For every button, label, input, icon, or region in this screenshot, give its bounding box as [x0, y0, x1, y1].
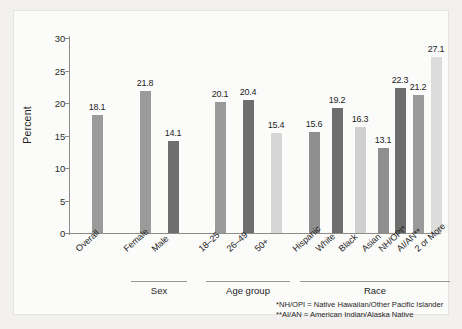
- chart-plate: Percent 051015202530 18.121.814.120.120.…: [14, 11, 448, 314]
- group-label: Race: [300, 285, 450, 296]
- bar-value-label: 18.1: [83, 102, 111, 112]
- y-tick-label: 0: [44, 228, 65, 239]
- bar-value-label: 15.4: [262, 120, 290, 130]
- x-tick-label: Male: [150, 233, 171, 253]
- y-tick-mark: [65, 201, 69, 202]
- y-tick-mark: [65, 71, 69, 72]
- bar-value-label: 14.1: [159, 128, 187, 138]
- bar-value-label: 20.4: [234, 87, 262, 97]
- group-rule: [206, 281, 290, 282]
- bar: [168, 141, 179, 233]
- bar: [309, 132, 320, 233]
- footnotes: *NH/OPI = Native Hawaiian/Other Pacific …: [276, 300, 443, 320]
- bar: [413, 95, 424, 233]
- bar-value-label: 13.1: [369, 135, 397, 145]
- group-label: Sex: [131, 285, 187, 296]
- y-tick-label: 5: [44, 195, 65, 206]
- y-tick-label: 25: [44, 65, 65, 76]
- bar-value-label: 15.6: [300, 119, 328, 129]
- bar-value-label: 16.3: [346, 114, 374, 124]
- x-tick-label: Overall: [74, 228, 101, 254]
- group-rule: [300, 281, 450, 282]
- footnote-aian: **AI/AN = American Indian/Alaska Native: [276, 310, 443, 320]
- y-axis-line: [69, 36, 70, 235]
- y-tick-mark: [65, 168, 69, 169]
- bar: [243, 100, 254, 233]
- y-tick-label: 15: [44, 130, 65, 141]
- y-tick-label: 10: [44, 163, 65, 174]
- y-axis-title: Percent: [21, 106, 33, 144]
- y-tick-mark: [65, 103, 69, 104]
- y-tick-label: 30: [44, 33, 65, 44]
- y-tick-label: 20: [44, 98, 65, 109]
- x-tick-label: 50+: [253, 236, 271, 253]
- bar: [332, 108, 343, 233]
- x-tick-label: Female: [122, 227, 151, 254]
- footnote-nhopi: *NH/OPI = Native Hawaiian/Other Pacific …: [276, 300, 443, 310]
- bar: [395, 88, 406, 233]
- y-tick-mark: [65, 136, 69, 137]
- bar: [378, 148, 389, 233]
- x-tick-label: Black: [337, 232, 360, 254]
- bar: [271, 133, 282, 233]
- bar-value-label: 20.1: [206, 89, 234, 99]
- bar: [215, 102, 226, 233]
- bar-value-label: 21.2: [404, 82, 432, 92]
- chart-screenshot: Percent 051015202530 18.121.814.120.120.…: [0, 0, 462, 329]
- bar-value-label: 21.8: [131, 78, 159, 88]
- bar-value-label: 19.2: [323, 95, 351, 105]
- group-rule: [131, 281, 187, 282]
- bar: [140, 91, 151, 233]
- bar: [431, 57, 442, 233]
- y-tick-mark: [65, 233, 69, 234]
- y-tick-mark: [65, 38, 69, 39]
- bar: [355, 127, 366, 233]
- group-label: Age group: [206, 285, 290, 296]
- bar: [92, 115, 103, 233]
- bar-value-label: 27.1: [422, 44, 450, 54]
- x-axis-line: [69, 233, 441, 234]
